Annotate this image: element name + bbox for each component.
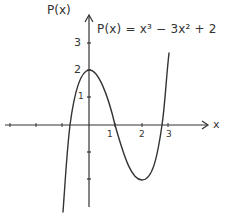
y-tick-label-3: 3 [74,36,81,49]
x-tick-label-2: 2 [139,129,145,139]
x-tick-label-3: 3 [166,129,172,139]
cubic-curve [63,53,169,212]
equation-label: P(x) = x³ − 3x² + 2 [97,22,217,36]
y-axis-label: P(x) [47,3,71,17]
x-tick-label-1: 1 [107,129,113,139]
y-tick-label-2: 2 [74,63,81,76]
x-axis-label: x [213,118,220,131]
y-tick-label-1: 1 [78,91,84,101]
